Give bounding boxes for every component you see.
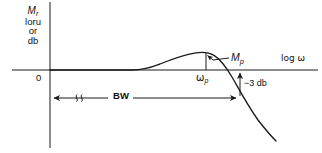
- peak-label-arrow: [208, 56, 214, 61]
- y-axis-label: Mr loru or db: [17, 6, 49, 46]
- y-axis-label-line-4: db: [17, 36, 49, 46]
- y-axis-label-line-1: Mr: [17, 6, 49, 17]
- figure-container: Mr loru or db 0 log ω Mp ωp −3 db BW: [0, 0, 322, 153]
- x-axis-label: log ω: [281, 54, 305, 63]
- bandwidth-label: BW: [111, 91, 131, 101]
- origin-label: 0: [36, 73, 41, 83]
- peak-magnitude-label: Mp: [231, 52, 244, 63]
- peak-label-leader: [213, 58, 229, 60]
- peak-frequency-label: ωp: [196, 73, 208, 84]
- cutoff-level-label: −3 db: [244, 79, 267, 88]
